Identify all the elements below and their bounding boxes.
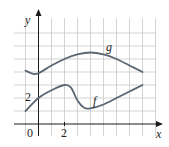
function-graph: y x 0 2 2 g f [0,0,169,147]
y-axis-arrow-icon [36,9,42,16]
x-axis-label: x [155,127,162,141]
curve-g [26,53,143,75]
x-tick-label-2: 2 [61,126,67,140]
curve-label-g: g [106,40,112,54]
grid-lines [14,18,156,136]
axes [14,9,163,136]
origin-label: 0 [27,126,33,140]
curves [26,53,143,112]
y-tick-label-2: 2 [25,90,31,104]
y-axis-label: y [24,13,31,27]
